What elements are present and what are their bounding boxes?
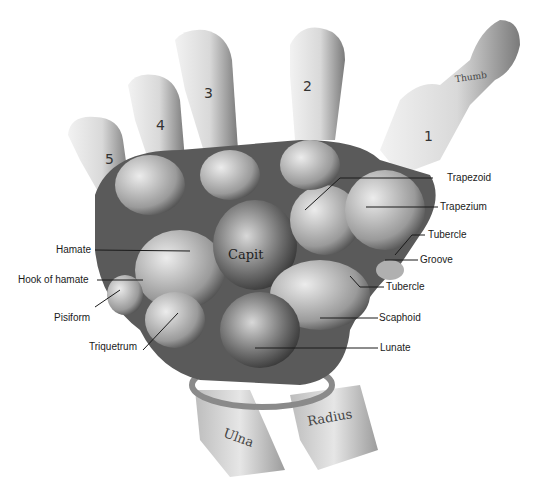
label-triquetrum: Triquetrum [89, 341, 137, 353]
radius-bone [290, 385, 378, 470]
label-tubercle-scaphoid: Tubercle [386, 281, 425, 293]
label-groove: Groove [420, 254, 453, 266]
label-trapezoid: Trapezoid [447, 172, 491, 184]
metacarpal-4-number: 4 [156, 117, 165, 133]
metacarpal-5-number: 5 [105, 151, 114, 167]
lunate-bone [220, 292, 300, 368]
trapezium-bone [345, 170, 425, 250]
metacarpal-3-number: 3 [204, 85, 213, 101]
label-trapezium: Trapezium [440, 201, 487, 213]
metacarpal-2-number: 2 [303, 78, 312, 94]
metacarpal-1-thumb [380, 20, 520, 175]
metacarpal-2 [290, 28, 345, 140]
capitate-inscription: Capit [228, 247, 263, 262]
triquetrum-bone [145, 292, 205, 348]
metacarpal-1-number: 1 [424, 128, 433, 144]
label-tubercle-trapezium: Tubercle [428, 229, 467, 241]
label-lunate: Lunate [380, 342, 411, 354]
label-hook-of-hamate: Hook of hamate [18, 274, 89, 286]
label-pisiform: Pisiform [54, 312, 90, 324]
anatomical-figure: 5 4 3 2 1 Capit Ulna Radius Thumb Hamate… [0, 0, 533, 477]
label-hamate: Hamate [56, 244, 91, 256]
label-scaphoid: Scaphoid [379, 312, 421, 324]
